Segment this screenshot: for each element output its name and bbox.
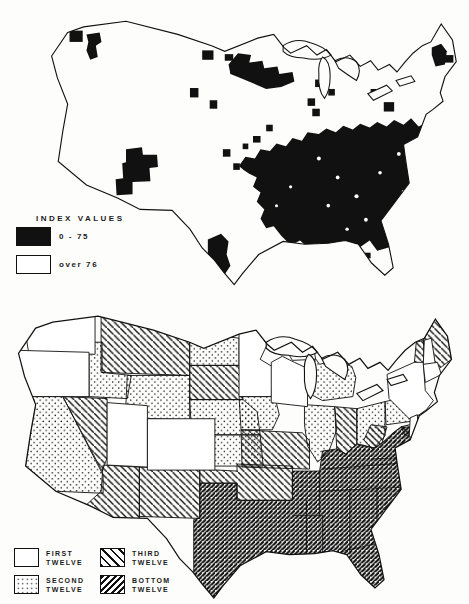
state-VT xyxy=(414,340,424,364)
state-SD xyxy=(190,365,243,399)
state-DE xyxy=(419,418,427,430)
legend-item: THIRD TWELVE xyxy=(100,548,274,567)
state-WA xyxy=(23,314,95,354)
top-map-legend: INDEX VALUES 0 - 75 over 76 xyxy=(16,214,156,283)
lake-erie xyxy=(357,385,383,401)
legend-item: FIRST TWELVE xyxy=(14,548,100,567)
legend-item: 0 - 75 xyxy=(16,227,156,246)
state-CO xyxy=(147,419,214,470)
superior-blob xyxy=(229,53,295,89)
hatch-swatch xyxy=(100,548,125,567)
state-WI xyxy=(271,356,307,406)
legend-item-label: over 76 xyxy=(59,260,98,269)
dense-swatch xyxy=(100,575,125,594)
lake-ontario xyxy=(396,76,415,86)
lake-erie xyxy=(368,85,392,100)
legend-item-label: FIRST TWELVE xyxy=(46,549,83,567)
black-swatch xyxy=(16,227,51,246)
legend-item: SECOND TWELVE xyxy=(14,575,100,594)
state-MT xyxy=(101,317,190,375)
state-UT xyxy=(107,403,147,467)
legend-item-label: BOTTOM TWELVE xyxy=(132,576,171,594)
state-IN xyxy=(335,407,357,454)
bottom-map-legend: FIRST TWELVE THIRD TWELVE SECOND TWELVE … xyxy=(14,548,274,602)
state-NM xyxy=(139,467,199,518)
legend-item: over 76 xyxy=(16,255,156,274)
southeast-county-blob xyxy=(239,118,460,252)
dots-swatch xyxy=(14,575,39,594)
legend-item: BOTTOM TWELVE xyxy=(100,575,274,594)
lake-superior xyxy=(266,337,317,357)
state-OH xyxy=(357,402,385,448)
legend-item-label: 0 - 75 xyxy=(59,232,89,241)
legend-item-label: SECOND TWELVE xyxy=(46,576,84,594)
four-corners-blob xyxy=(116,147,158,195)
state-OR xyxy=(16,350,90,396)
lake-superior xyxy=(283,41,331,60)
white-swatch xyxy=(16,255,51,274)
plain-swatch xyxy=(14,548,39,567)
legend-item-label: THIRD TWELVE xyxy=(132,549,169,567)
legend-title: INDEX VALUES xyxy=(36,214,156,223)
south-texas-blob xyxy=(208,234,231,277)
